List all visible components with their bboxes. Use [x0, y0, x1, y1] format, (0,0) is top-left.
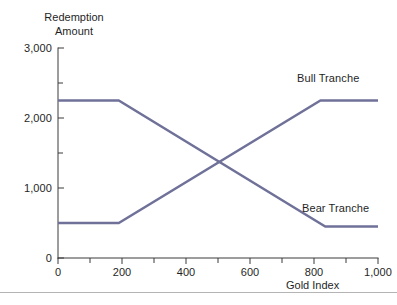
x-tick-label-0: 0 [28, 266, 88, 279]
series-label-bull-tranche: Bull Tranche [297, 72, 359, 85]
chart-figure: Redemption Amount 3,000 2,000 1,000 0 0 … [0, 0, 397, 305]
chart-plot-area [0, 0, 397, 305]
x-axis-minor-ticks [90, 258, 346, 263]
x-tick-label-200: 200 [92, 266, 152, 279]
y-tick-label-3000: 3,000 [6, 42, 52, 55]
series-label-bear-tranche: Bear Tranche [302, 202, 369, 215]
bottom-divider [0, 292, 397, 293]
y-tick-label-1000: 1,000 [6, 182, 52, 195]
x-axis-title: Gold Index [286, 279, 372, 293]
y-axis-title: Redemption Amount [22, 11, 126, 38]
x-tick-label-400: 400 [156, 266, 216, 279]
x-tick-label-800: 800 [284, 266, 344, 279]
x-tick-label-600: 600 [220, 266, 280, 279]
y-tick-label-2000: 2,000 [6, 112, 52, 125]
y-axis-minor-ticks [58, 83, 63, 223]
y-axis-title-line2: Amount [22, 25, 126, 39]
y-tick-label-0: 0 [6, 252, 52, 265]
y-axis-title-line1: Redemption [22, 11, 126, 25]
x-tick-label-1000: 1,000 [348, 266, 397, 279]
